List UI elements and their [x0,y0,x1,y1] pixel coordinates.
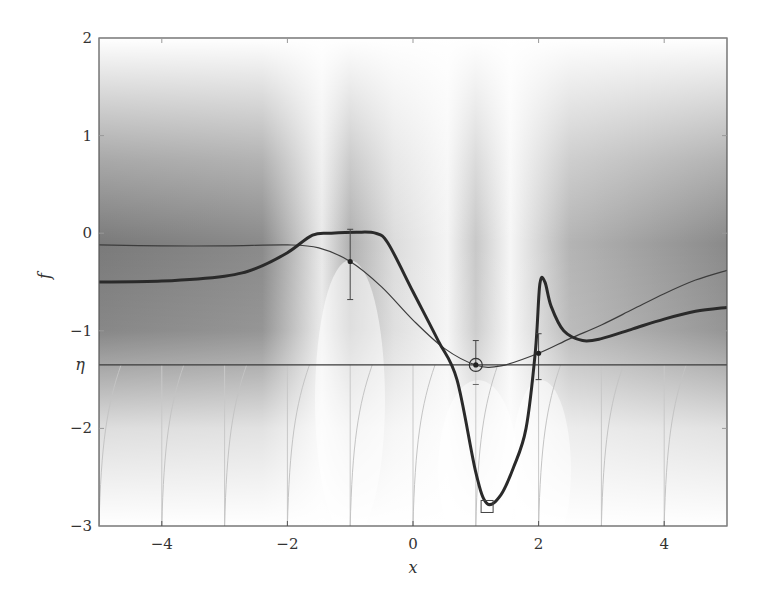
y-tick-label: −1 [70,322,92,340]
x-tick-label: 4 [659,535,669,553]
x-tick-label: −4 [151,535,173,553]
x-tick-label: 0 [408,535,418,553]
chart: −4−2024 210−1−2−3 η x f [0,0,768,600]
y-tick-label: −2 [70,419,92,437]
y-axis-label: f [35,270,54,280]
y-tick-label: −3 [70,517,92,535]
x-tick-label: −2 [276,535,298,553]
y-tick-label: 2 [82,29,92,47]
threshold-eta-label: η [75,355,85,374]
y-tick-label: 1 [82,127,92,145]
x-tick-label: 2 [534,535,544,553]
x-axis-label: x [408,558,417,577]
y-tick-label: 0 [82,224,92,242]
